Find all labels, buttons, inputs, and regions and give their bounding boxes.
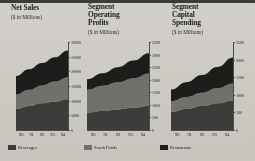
y-axis-line xyxy=(233,42,234,130)
x-axis: 9091929394 xyxy=(87,132,149,137)
y-axis: 05001000150020002500 xyxy=(233,42,253,130)
legend-swatch-icon xyxy=(8,145,16,150)
x-axis: 9091929394 xyxy=(16,132,68,137)
y-tick-mark xyxy=(68,130,70,131)
x-tick-label: 92 xyxy=(196,132,208,137)
y-tick-mark xyxy=(233,112,235,113)
chart-panel-net-sales: Net Sales ($ in Millions) 05000100001500… xyxy=(0,0,84,161)
y-tick-mark xyxy=(149,92,151,93)
y-tick-label: 10000 xyxy=(71,98,81,103)
y-tick-mark xyxy=(233,130,235,131)
y-tick-label: 3500 xyxy=(152,40,160,45)
legend-item[interactable]: Beverages xyxy=(8,145,37,150)
y-tick-label: 2000 xyxy=(152,77,160,82)
y-axis: 0500100015002000250030003500 xyxy=(149,42,167,130)
x-tick-label: 93 xyxy=(124,132,136,137)
x-tick-label: 92 xyxy=(37,132,47,137)
y-tick-label: 5000 xyxy=(71,113,79,118)
x-tick-label: 90 xyxy=(87,132,99,137)
x-tick-label: 91 xyxy=(183,132,195,137)
legend-item[interactable]: Snack Foods xyxy=(84,145,117,150)
y-tick-label: 1000 xyxy=(236,92,244,97)
chart-panel-capital-spending: Segment Capital Spending ($ in Millions)… xyxy=(168,0,255,161)
y-tick-mark xyxy=(149,42,151,43)
x-tick-label: 94 xyxy=(137,132,149,137)
y-tick-label: 1500 xyxy=(236,75,244,80)
y-tick-mark xyxy=(149,55,151,56)
chart-plot-area xyxy=(171,42,233,130)
stacked-area-svg xyxy=(87,42,149,130)
x-axis-line xyxy=(16,130,68,131)
chart-subtitle: ($ in Millions) xyxy=(88,29,119,35)
y-tick-label: 30000 xyxy=(71,40,81,45)
y-tick-label: 2500 xyxy=(152,65,160,70)
y-tick-label: 3000 xyxy=(152,52,160,57)
y-tick-label: 20000 xyxy=(71,69,81,74)
y-tick-mark xyxy=(233,42,235,43)
y-tick-label: 0 xyxy=(71,128,73,133)
y-tick-mark xyxy=(68,115,70,116)
x-axis: 9091929394 xyxy=(171,132,233,137)
legend-item[interactable]: Restaurants xyxy=(160,145,191,150)
legend-label: Restaurants xyxy=(170,145,191,150)
stacked-area-svg xyxy=(171,42,233,130)
y-tick-label: 2500 xyxy=(236,40,244,45)
y-tick-label: 1500 xyxy=(152,90,160,95)
y-tick-mark xyxy=(68,86,70,87)
chart-plot-area xyxy=(16,42,68,130)
y-axis: 050001000015000200002500030000 xyxy=(68,42,84,130)
y-tick-mark xyxy=(149,117,151,118)
y-tick-label: 500 xyxy=(152,115,158,120)
chart-title: Net Sales xyxy=(11,4,39,12)
stacked-area-svg xyxy=(16,42,68,130)
legend-swatch-icon xyxy=(84,145,92,150)
legend-label: Snack Foods xyxy=(94,145,117,150)
x-tick-label: 91 xyxy=(99,132,111,137)
y-tick-mark xyxy=(68,57,70,58)
x-axis-line xyxy=(87,130,149,131)
x-tick-label: 92 xyxy=(112,132,124,137)
x-axis-line xyxy=(171,130,233,131)
y-tick-mark xyxy=(68,101,70,102)
x-tick-label: 90 xyxy=(171,132,183,137)
y-tick-label: 15000 xyxy=(71,84,81,89)
y-tick-mark xyxy=(149,80,151,81)
chart-title: Segment Operating Profits xyxy=(88,3,120,27)
y-tick-mark xyxy=(149,105,151,106)
y-tick-label: 2000 xyxy=(236,57,244,62)
y-tick-mark xyxy=(68,42,70,43)
y-tick-mark xyxy=(233,60,235,61)
chart-subtitle: ($ in Millions) xyxy=(11,14,42,20)
legend-label: Beverages xyxy=(18,145,37,150)
y-tick-mark xyxy=(68,71,70,72)
x-tick-label: 93 xyxy=(208,132,220,137)
x-tick-label: 90 xyxy=(16,132,26,137)
legend-swatch-icon xyxy=(160,145,168,150)
x-tick-label: 93 xyxy=(47,132,57,137)
x-tick-label: 94 xyxy=(58,132,68,137)
chart-legend: BeveragesSnack FoodsRestaurants xyxy=(0,144,255,154)
y-tick-mark xyxy=(233,77,235,78)
x-tick-label: 94 xyxy=(221,132,233,137)
y-tick-mark xyxy=(149,130,151,131)
y-tick-label: 0 xyxy=(236,128,238,133)
y-tick-label: 1000 xyxy=(152,102,160,107)
y-tick-label: 25000 xyxy=(71,54,81,59)
chart-subtitle: ($ in Millions) xyxy=(172,29,203,35)
report-page: Net Sales ($ in Millions) 05000100001500… xyxy=(0,0,255,161)
y-tick-mark xyxy=(233,95,235,96)
y-tick-label: 0 xyxy=(152,128,154,133)
chart-panel-operating-profits: Segment Operating Profits ($ in Millions… xyxy=(84,0,168,161)
chart-plot-area xyxy=(87,42,149,130)
y-tick-mark xyxy=(149,67,151,68)
chart-title: Segment Capital Spending xyxy=(172,3,201,27)
y-tick-label: 500 xyxy=(236,110,242,115)
x-tick-label: 91 xyxy=(26,132,36,137)
